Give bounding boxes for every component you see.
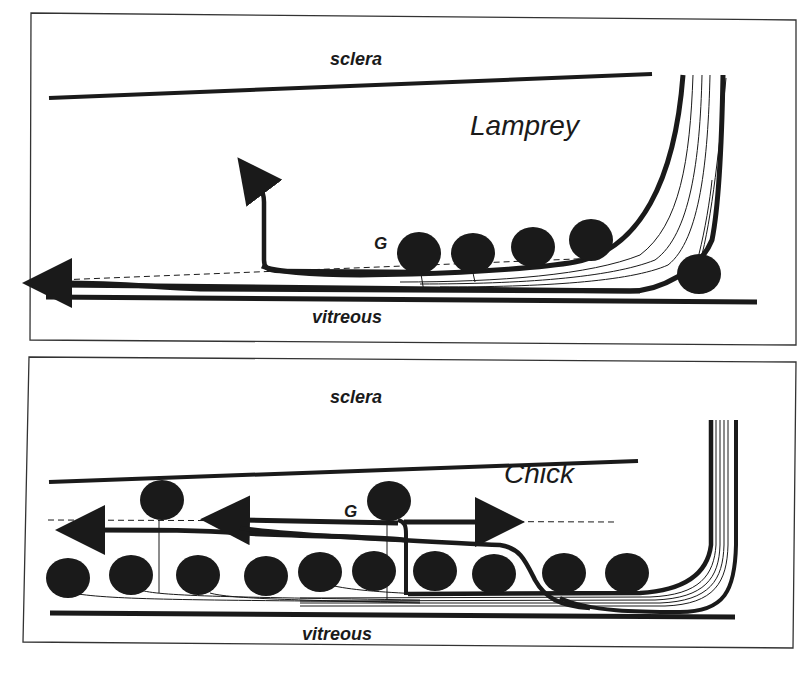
chick-sclera-label: sclera: [330, 388, 382, 406]
lamprey-vitreous-line: [46, 297, 757, 302]
chick-cell-g: [367, 481, 411, 521]
lamprey-fiber-bundle: [60, 75, 726, 291]
chick-vitreous-line: [50, 613, 735, 617]
chick-panel: [46, 420, 736, 617]
lamprey-species-label: Lamprey: [470, 112, 579, 140]
diagram-canvas: [0, 0, 811, 678]
chick-g-label: G: [344, 503, 357, 520]
lamprey-cell-g: [397, 232, 441, 274]
lamprey-axon-up-arrow: [259, 186, 420, 272]
lamprey-panel: [34, 74, 757, 302]
chick-axon-vertical: [398, 520, 406, 595]
chick-vitreous-label: vitreous: [302, 625, 372, 643]
chick-species-label: Chick: [504, 460, 574, 488]
lamprey-ganglion-cells: [397, 219, 721, 294]
chick-axon-left-arrow-short: [240, 520, 398, 523]
lamprey-g-label: G: [374, 235, 387, 252]
lamprey-sclera-line: [49, 74, 652, 98]
lamprey-vitreous-label: vitreous: [312, 308, 382, 326]
lamprey-sclera-label: sclera: [330, 50, 382, 68]
